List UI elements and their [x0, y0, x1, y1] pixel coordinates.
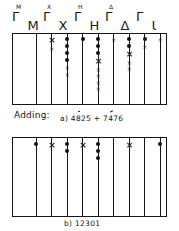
problem-index-label: a) [60, 114, 71, 123]
cross-mark-small[interactable]: × [111, 37, 116, 42]
cross-mark-large[interactable]: × [48, 142, 55, 149]
counter-bead[interactable] [65, 58, 69, 62]
cross-mark-small[interactable]: × [127, 66, 132, 71]
column-divider [113, 138, 114, 216]
counter-bead[interactable] [96, 44, 100, 48]
abacus-column-1[interactable] [153, 138, 169, 216]
digit: 4 [108, 114, 113, 123]
abacus-column-50[interactable]: × [106, 34, 122, 104]
abacus-figure: ΓMMΓXXΓHHΓΔΔΓƖ ××××××××××××××× Adding: a… [0, 0, 179, 231]
column-divider [144, 138, 145, 216]
cross-mark-small[interactable]: × [96, 86, 101, 91]
counter-bead[interactable] [96, 51, 100, 55]
cross-mark-small[interactable]: × [127, 60, 132, 65]
column-symbol-500: ΓH [74, 10, 81, 23]
cross-mark-large[interactable]: × [79, 142, 86, 149]
abacus-column-500[interactable] [75, 34, 91, 104]
counter-bead[interactable] [96, 149, 100, 153]
counter-bead[interactable] [81, 37, 85, 41]
column-symbol-1: Ɩ [152, 19, 157, 32]
numeral-glyph: X [59, 19, 68, 32]
abacus-column-5[interactable] [137, 138, 153, 216]
cross-mark-large[interactable]: × [95, 58, 102, 65]
column-divider [36, 138, 37, 216]
cross-mark-small[interactable]: × [96, 67, 101, 72]
counter-stack [60, 142, 76, 156]
counter-stack: × [75, 142, 91, 151]
cross-mark-small[interactable]: × [142, 44, 147, 49]
addition-result: b) 12301 [64, 219, 100, 228]
column-symbol-10000: M [28, 19, 39, 32]
counter-bead[interactable] [65, 149, 69, 153]
digit: 8 [76, 114, 81, 123]
counter-bead[interactable] [127, 44, 131, 48]
numeral-glyph: M [28, 19, 39, 32]
abacus-column-1[interactable]: × [153, 34, 169, 104]
counter-stack: × [44, 142, 60, 151]
cross-mark-large[interactable]: × [126, 142, 133, 149]
counter-bead[interactable] [65, 44, 69, 48]
column-divider [36, 34, 37, 104]
abacus-column-500[interactable]: × [75, 138, 91, 216]
counter-bead[interactable] [65, 51, 69, 55]
abacus-column-50[interactable] [106, 138, 122, 216]
counter-bead[interactable] [65, 142, 69, 146]
gamma-glyph: ΓX [43, 10, 50, 23]
column-symbol-50000: ΓM [12, 10, 19, 23]
cross-mark-small[interactable]: × [49, 46, 54, 51]
gamma-glyph: ΓΔ [105, 10, 112, 23]
abacus-column-5000[interactable]: × [44, 138, 60, 216]
cross-mark-small[interactable]: × [158, 37, 163, 42]
digit: 6 [118, 114, 123, 123]
counter-bead[interactable] [158, 142, 162, 146]
abacus-column-50000[interactable] [13, 138, 29, 216]
column-symbol-50: ΓΔ [105, 10, 112, 23]
column-symbol-5: Γ [136, 10, 143, 23]
numeral-glyph: Γ [136, 10, 143, 23]
cross-mark-small[interactable]: × [96, 73, 101, 78]
counter-bead[interactable] [143, 37, 147, 41]
cross-mark-small[interactable]: × [96, 80, 101, 85]
abacus-column-10[interactable]: × [122, 138, 138, 216]
counter-bead[interactable] [65, 37, 69, 41]
cross-mark-small[interactable]: × [65, 72, 70, 77]
counter-bead[interactable] [96, 142, 100, 146]
counter-stack: ××××× [91, 37, 107, 93]
counter-bead[interactable] [34, 142, 38, 146]
column-divider [160, 34, 161, 104]
cross-mark-large[interactable]: × [48, 37, 55, 44]
counter-stack [153, 142, 169, 149]
column-divider [113, 34, 114, 104]
addition-working-board: ××××××××××××××× [12, 33, 167, 105]
counter-stack: ×× [44, 37, 60, 52]
abacus-column-10[interactable]: ××× [122, 34, 138, 104]
abacus-column-5000[interactable]: ×× [44, 34, 60, 104]
column-symbol-10: Δ [121, 19, 130, 32]
cross-mark-large[interactable]: × [126, 51, 133, 58]
abacus-column-5[interactable]: × [137, 34, 153, 104]
plus-sign: + [91, 114, 103, 123]
abacus-column-50000[interactable] [13, 34, 29, 104]
column-symbol-5000: ΓX [43, 10, 50, 23]
abacus-column-10000[interactable] [29, 34, 45, 104]
numeral-glyph: H [90, 19, 100, 32]
abacus-column-10000[interactable] [29, 138, 45, 216]
counter-bead[interactable] [96, 156, 100, 160]
abacus-column-100[interactable] [91, 138, 107, 216]
abacus-column-100[interactable]: ××××× [91, 34, 107, 104]
counter-bead[interactable] [96, 37, 100, 41]
counter-stack [91, 142, 107, 163]
multiplier-glyph: M [16, 4, 21, 10]
counter-bead[interactable] [127, 37, 131, 41]
abacus-column-1000[interactable] [60, 138, 76, 216]
counter-stack [75, 37, 91, 44]
numeral-glyph: Δ [121, 19, 130, 32]
numeral-glyph: Ɩ [152, 19, 157, 32]
multiplier-glyph: Δ [109, 4, 113, 10]
gamma-glyph: ΓM [12, 10, 19, 23]
cross-mark-small[interactable]: × [65, 65, 70, 70]
abacus-column-1000[interactable]: ×× [60, 34, 76, 104]
multiplier-glyph: H [78, 4, 83, 10]
gamma-glyph: ΓH [74, 10, 81, 23]
counter-stack: ××× [122, 37, 138, 73]
